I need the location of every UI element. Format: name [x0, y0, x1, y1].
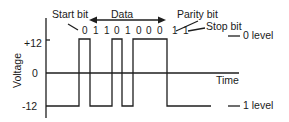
parity-bit-label: Parity bit	[177, 8, 218, 20]
bit-5: 0	[136, 25, 142, 36]
zero-level-label: 0 level	[243, 29, 273, 41]
bit-3: 0	[114, 25, 120, 36]
bit-6: 0	[146, 25, 152, 36]
y-tick-label-minus12: -12	[22, 100, 37, 112]
bit-9-stop: 1	[183, 25, 189, 36]
arrow-left-head-icon	[89, 17, 97, 24]
bit-4: 1	[125, 25, 131, 36]
start-bit-leader	[68, 24, 78, 30]
start-bit-label: Start bit	[52, 8, 88, 20]
y-tick-label-0: 0	[32, 67, 38, 79]
data-label: Data	[111, 8, 133, 20]
one-level-label: 1 level	[243, 99, 273, 111]
stop-bit-leader	[188, 28, 205, 31]
x-axis-label: Time	[216, 74, 239, 86]
bit-0-start: 0	[82, 25, 88, 36]
y-tick-label-plus12: +12	[24, 37, 42, 49]
bit-2: 1	[104, 25, 110, 36]
bit-7: 0	[157, 25, 163, 36]
stop-bit-label: Stop bit	[206, 20, 242, 32]
bit-8-parity: 1	[172, 25, 178, 36]
rs232-waveform-diagram: Start bit Data Parity bit Stop bit 0 lev…	[0, 0, 289, 122]
arrow-right-head-icon	[158, 17, 166, 24]
bit-1: 1	[93, 25, 99, 36]
y-axis-label: Voltage	[11, 53, 23, 88]
